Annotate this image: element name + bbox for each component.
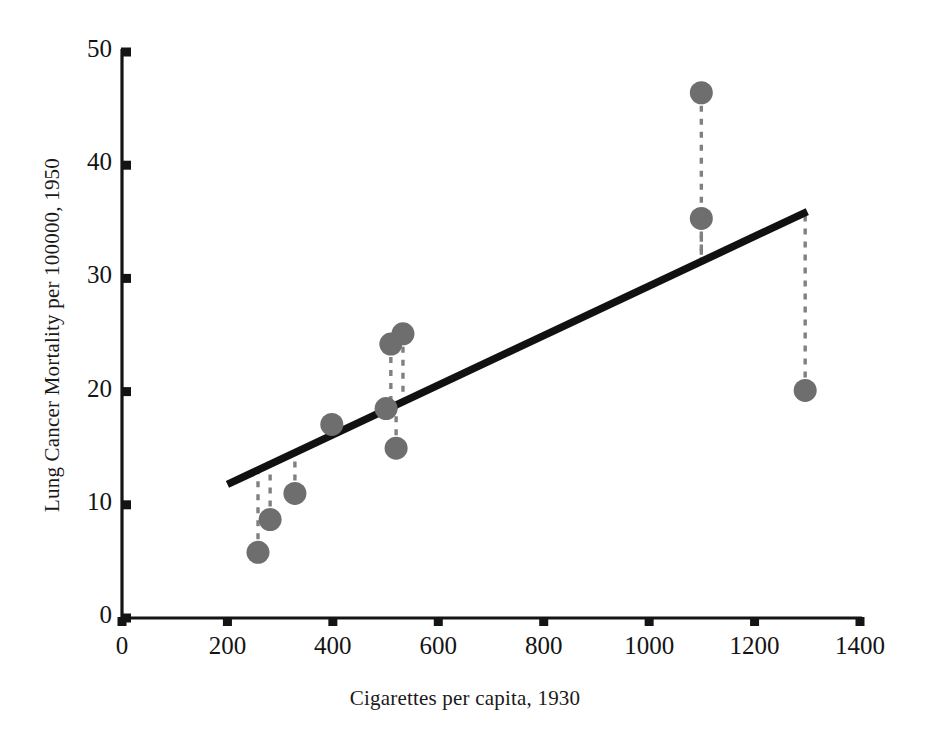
- regression-line-group: [227, 212, 807, 485]
- data-point[interactable]: [690, 207, 713, 230]
- x-axis-tick: [856, 617, 865, 626]
- y-tick-label: 50: [16, 35, 112, 63]
- y-tick-label: 20: [16, 375, 112, 403]
- x-axis-tick: [223, 617, 232, 626]
- scatter-plot-figure: [0, 0, 930, 742]
- data-point[interactable]: [794, 379, 817, 402]
- x-tick-label: 0: [72, 632, 172, 660]
- x-axis-tick: [434, 617, 443, 626]
- y-tick-label: 10: [16, 488, 112, 516]
- residual-lines-group: [258, 93, 805, 553]
- y-axis-tick: [121, 161, 131, 170]
- x-tick-label: 800: [494, 632, 594, 660]
- x-tick-label: 1000: [599, 632, 699, 660]
- x-axis-tick: [750, 617, 759, 626]
- y-axis-tick: [121, 274, 131, 283]
- x-tick-label: 1400: [810, 632, 910, 660]
- y-axis-tick: [121, 500, 131, 509]
- x-tick-label: 200: [177, 632, 277, 660]
- x-axis-tick: [328, 617, 337, 626]
- data-points-group: [247, 81, 817, 564]
- y-tick-label: 30: [16, 261, 112, 289]
- data-point[interactable]: [247, 541, 270, 564]
- axes-group: [118, 48, 865, 627]
- data-point[interactable]: [385, 437, 408, 460]
- y-axis-label: Lung Cancer Mortality per 100000, 1950: [40, 158, 65, 512]
- x-tick-label: 1200: [705, 632, 805, 660]
- y-tick-label: 40: [16, 148, 112, 176]
- y-axis-tick: [121, 387, 131, 396]
- regression-line: [227, 212, 807, 485]
- x-axis-tick: [645, 617, 654, 626]
- y-axis-tick: [121, 48, 131, 57]
- data-point[interactable]: [391, 322, 414, 345]
- data-point[interactable]: [320, 413, 343, 436]
- x-axis-label: Cigarettes per capita, 1930: [0, 686, 930, 711]
- data-point[interactable]: [259, 508, 282, 531]
- data-point[interactable]: [375, 397, 398, 420]
- data-point[interactable]: [690, 81, 713, 104]
- y-tick-label: 0: [16, 601, 112, 629]
- x-axis-tick: [118, 617, 127, 626]
- data-point[interactable]: [283, 482, 306, 505]
- x-axis-tick: [539, 617, 548, 626]
- x-tick-label: 600: [388, 632, 488, 660]
- x-tick-label: 400: [283, 632, 383, 660]
